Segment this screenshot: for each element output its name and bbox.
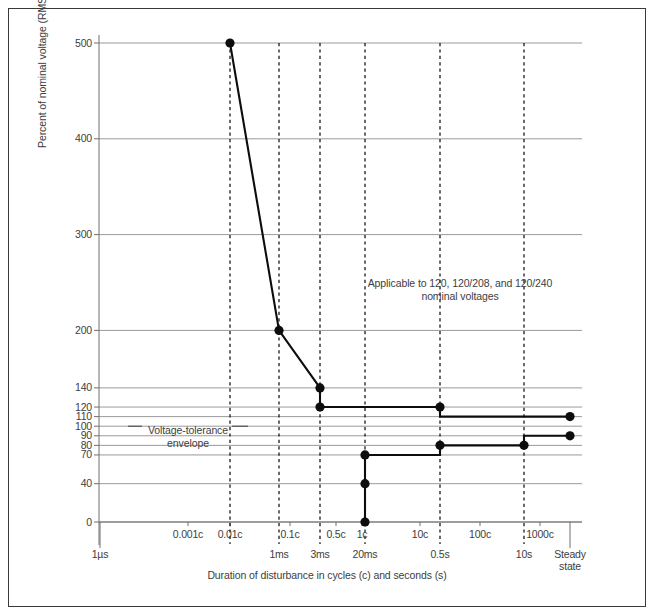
y-tick-marks xyxy=(94,43,99,522)
x-tick-label-cycles: 1c xyxy=(332,528,392,540)
x-tick-label-seconds-line: Steady xyxy=(540,548,600,560)
data-point-marker xyxy=(435,402,444,411)
y-tick-label: 400 xyxy=(60,132,92,144)
data-point-marker xyxy=(519,441,528,450)
data-point-marker xyxy=(435,441,444,450)
y-axis-title-wrapper: Percent of nominal voltage (RMS or peak … xyxy=(36,148,37,149)
chart-page: Percent of nominal voltage (RMS or peak … xyxy=(0,0,654,615)
nominal-voltages-annotation: Applicable to 120, 120/208, and 120/240 … xyxy=(360,277,560,303)
x-tick-label-cycles: 100c xyxy=(450,528,510,540)
x-tick-label-seconds-line: state xyxy=(540,560,600,572)
y-tick-label: 500 xyxy=(60,37,92,49)
y-tick-label: 140 xyxy=(60,381,92,393)
data-point-marker xyxy=(225,38,234,47)
data-point-marker xyxy=(565,412,574,421)
data-point-marker xyxy=(315,383,324,392)
y-tick-label: 0 xyxy=(60,516,92,528)
y-tick-label: 40 xyxy=(60,477,92,489)
data-point-marker xyxy=(360,450,369,459)
y-tick-label: 200 xyxy=(60,324,92,336)
data-point-marker xyxy=(274,326,283,335)
x-tick-label-seconds: Steadystate xyxy=(540,548,600,572)
envelope-line xyxy=(365,436,570,522)
envelope-line xyxy=(230,43,570,417)
x-tick-label-seconds: 20ms xyxy=(335,548,395,560)
y-tick-label: 120 xyxy=(60,401,92,413)
y-tick-label: 300 xyxy=(60,228,92,240)
x-tick-label-seconds: 0.5s xyxy=(410,548,470,560)
x-tick-label-cycles: 10c xyxy=(390,528,450,540)
data-point-marker xyxy=(360,517,369,526)
data-point-marker xyxy=(360,479,369,488)
voltage-tolerance-curve-plot xyxy=(0,0,654,615)
y-axis-title: Percent of nominal voltage (RMS or peak … xyxy=(36,0,48,148)
data-point-marker xyxy=(565,431,574,440)
x-tick-label-cycles: 0.01c xyxy=(200,528,260,540)
voltage-tolerance-envelope-label: Voltage-tolerance envelope xyxy=(140,424,236,449)
x-tick-label-seconds: 1µs xyxy=(70,548,130,560)
x-tick-label-cycles: 1000c xyxy=(510,528,570,540)
data-point-marker xyxy=(315,402,324,411)
